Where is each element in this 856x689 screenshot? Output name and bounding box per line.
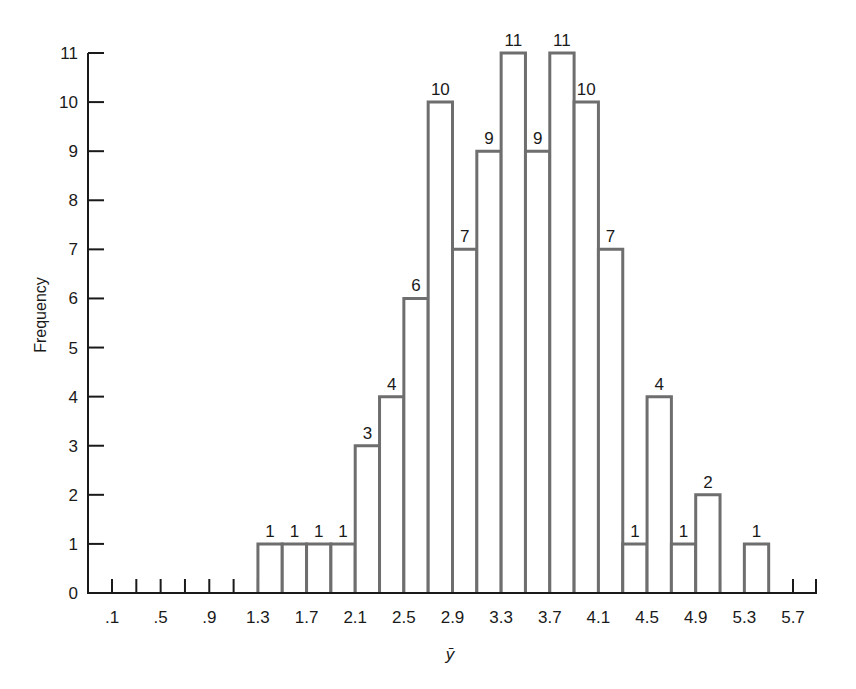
histogram-bar [598, 249, 622, 593]
x-tick-label: 4.5 [635, 608, 659, 627]
bar-value-label: 9 [484, 129, 493, 148]
bar-value-label: 7 [606, 227, 615, 246]
y-tick-label: 11 [60, 44, 78, 63]
y-tick-label: 6 [69, 289, 78, 308]
histogram-bar [380, 397, 404, 593]
y-axis-title: Frequency [32, 277, 49, 353]
bar-value-label: 7 [460, 227, 469, 246]
x-tick-label: 1.7 [295, 608, 319, 627]
x-tick-label: .9 [202, 608, 216, 627]
histogram-bar [428, 102, 452, 593]
bar-value-label: 10 [431, 80, 450, 99]
y-tick-label: 9 [69, 142, 78, 161]
bar-value-label: 10 [577, 80, 596, 99]
bar-value-label: 11 [504, 31, 522, 50]
histogram-bar [525, 151, 549, 593]
bar-value-label: 3 [363, 424, 372, 443]
bar-value-label: 6 [411, 276, 420, 295]
histogram-bar [453, 249, 477, 593]
x-tick-label: .5 [154, 608, 168, 627]
y-tick-label: 3 [69, 437, 78, 456]
histogram-bar [355, 446, 379, 593]
bar-value-label: 1 [679, 522, 688, 541]
bar-value-label: 9 [533, 129, 542, 148]
bar-value-label: 1 [265, 522, 274, 541]
histogram-bar [623, 544, 647, 593]
histogram-bar [477, 151, 501, 593]
y-tick-label: 2 [69, 486, 78, 505]
y-tick-label: 1 [69, 535, 78, 554]
bar-value-label: 1 [338, 522, 347, 541]
histogram-bar [550, 53, 574, 593]
bar-value-label: 4 [654, 375, 663, 394]
x-axis-title: ȳ [445, 645, 456, 664]
y-tick-label: 10 [59, 93, 78, 112]
bar-value-label: 4 [387, 375, 396, 394]
histogram-bar [696, 495, 720, 593]
histogram-bar [671, 544, 695, 593]
histogram-chart: 01234567891011 .1.5.91.31.72.12.52.93.33… [0, 0, 856, 689]
histogram-bar [331, 544, 355, 593]
x-tick-label: .1 [105, 608, 119, 627]
histogram-bar [647, 397, 671, 593]
y-tick-label: 8 [69, 191, 78, 210]
bar-value-label: 1 [314, 522, 323, 541]
bar-value-label: 1 [290, 522, 299, 541]
x-tick-label: 4.1 [587, 608, 611, 627]
x-tick-label: 2.1 [343, 608, 367, 627]
y-tick-label: 4 [69, 388, 78, 407]
x-tick-label: 5.7 [781, 608, 805, 627]
bar-value-label: 1 [630, 522, 639, 541]
y-axis-ticks: 01234567891011 [59, 44, 104, 603]
histogram-bar [404, 298, 428, 593]
histogram-bar [574, 102, 598, 593]
x-tick-label: 5.3 [733, 608, 757, 627]
histogram-bar [307, 544, 331, 593]
histogram-bar [501, 53, 525, 593]
histogram-bars [258, 53, 769, 593]
y-tick-label: 7 [69, 240, 78, 259]
x-tick-label: 4.9 [684, 608, 708, 627]
bar-value-label: 2 [703, 473, 712, 492]
bar-value-label: 1 [752, 522, 761, 541]
x-tick-label: 1.3 [246, 608, 270, 627]
y-tick-label: 0 [69, 584, 78, 603]
x-tick-label: 3.7 [538, 608, 562, 627]
x-tick-label: 3.3 [489, 608, 513, 627]
bar-value-label: 11 [553, 31, 571, 50]
histogram-bar [744, 544, 768, 593]
x-tick-label: 2.9 [441, 608, 465, 627]
histogram-bar [258, 544, 282, 593]
y-tick-label: 5 [69, 339, 78, 358]
x-tick-label: 2.5 [392, 608, 416, 627]
histogram-bar [282, 544, 306, 593]
